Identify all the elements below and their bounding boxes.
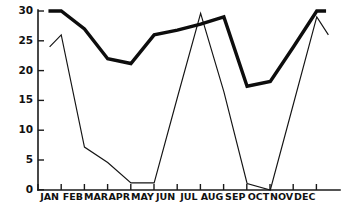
y-tick-label-0: 0 [26, 183, 33, 195]
data-series-thick-line [48, 11, 326, 86]
x-tick-label-nov: NOV [270, 191, 294, 202]
x-tick-label-jul: JUL [179, 191, 197, 202]
y-tick-label-10: 10 [18, 123, 33, 135]
x-axis-ticks [38, 184, 316, 190]
y-tick-label-25: 25 [18, 34, 33, 46]
y-axis-ticks [38, 11, 44, 190]
x-tick-label-apr: APR [108, 191, 130, 202]
x-axis-group: JAN FEB MAR APR MAY JUN JUL AUG SEP OCT … [38, 184, 340, 202]
x-tick-label-sep: SEP [225, 191, 245, 202]
line-chart: 30 25 20 15 10 5 0 [0, 0, 346, 211]
x-tick-label-jan: JAN [39, 191, 59, 202]
x-axis-labels: JAN FEB MAR APR MAY JUN JUL AUG SEP OCT … [39, 191, 315, 202]
x-tick-label-mar: MAR [84, 191, 109, 202]
x-tick-label-jun: JUN [155, 191, 175, 202]
y-tick-label-15: 15 [18, 93, 33, 105]
y-tick-label-20: 20 [18, 64, 33, 76]
y-axis-group: 30 25 20 15 10 5 0 [18, 4, 44, 195]
chart-canvas: 30 25 20 15 10 5 0 [0, 0, 346, 211]
x-tick-label-dec: DEC [294, 191, 315, 202]
y-tick-label-30: 30 [18, 4, 33, 16]
y-axis-labels: 30 25 20 15 10 5 0 [18, 4, 33, 195]
x-tick-label-aug: AUG [201, 191, 224, 202]
x-tick-label-oct: OCT [248, 191, 270, 202]
y-tick-label-5: 5 [26, 153, 33, 165]
x-tick-label-feb: FEB [63, 191, 83, 202]
x-tick-label-may: MAY [131, 191, 154, 202]
